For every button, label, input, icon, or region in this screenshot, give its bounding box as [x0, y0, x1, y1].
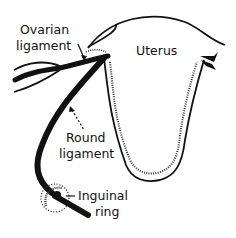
- round-ligament-arrowhead: [69, 106, 75, 112]
- round-ligament-label-line2: ligament: [59, 146, 114, 161]
- left-horn-cut-marks: [86, 50, 106, 52]
- inguinal-ring-knot: [53, 191, 61, 199]
- uterus-label: Uterus: [136, 43, 177, 58]
- ovarian-label-line2: ligament: [16, 38, 71, 53]
- uterus-body-outline: [104, 58, 204, 181]
- inguinal-label-line2: ring: [95, 204, 119, 219]
- round-ligament-pointer: [72, 110, 84, 130]
- uterus-ligament-diagram: Ovarian ligament Uterus Round ligament I…: [0, 0, 236, 238]
- right-horn-stump-upper: [200, 52, 218, 62]
- ovarian-label-line1: Ovarian: [20, 22, 69, 37]
- round-ligament-label-line1: Round: [66, 130, 106, 145]
- inguinal-label-line1: Inguinal: [78, 188, 128, 203]
